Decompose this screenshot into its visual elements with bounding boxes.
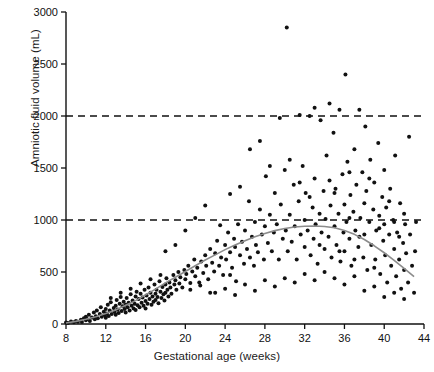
data-point (345, 160, 349, 164)
data-point (158, 273, 162, 277)
scatter-plot-svg: 0500100015002000250030008121620242832364… (0, 0, 434, 372)
data-point (115, 298, 119, 302)
data-point (299, 233, 303, 237)
data-point (392, 291, 396, 295)
data-point (128, 308, 132, 312)
data-point (203, 203, 207, 207)
data-point (351, 210, 355, 214)
data-point (176, 270, 180, 274)
data-point (285, 26, 289, 30)
data-point (288, 213, 292, 217)
data-point (124, 311, 128, 315)
x-tick-label-40: 40 (378, 332, 390, 344)
data-point (384, 206, 388, 210)
data-point (347, 216, 351, 220)
data-point (382, 295, 386, 299)
data-point (262, 258, 266, 262)
data-point (228, 250, 232, 254)
data-point (114, 304, 118, 308)
data-point (303, 245, 307, 249)
data-point (306, 228, 310, 232)
data-point (333, 191, 337, 195)
data-point (138, 305, 142, 309)
y-axis-label: Amniotic fluid volume (mL) (29, 3, 41, 193)
data-point (413, 249, 417, 253)
data-point (212, 269, 216, 273)
data-point (201, 271, 205, 275)
data-point (352, 274, 356, 278)
data-point (414, 220, 418, 224)
data-point (88, 319, 92, 323)
data-point (180, 286, 184, 290)
data-point (344, 220, 348, 224)
data-point (349, 264, 353, 268)
data-point (325, 154, 329, 158)
data-point (87, 313, 91, 317)
data-point (253, 289, 257, 293)
data-point (208, 247, 212, 251)
data-point (256, 250, 260, 254)
data-point (290, 240, 294, 244)
data-point (139, 281, 143, 285)
data-point (303, 272, 307, 276)
data-point (147, 286, 151, 290)
data-point (268, 213, 272, 217)
data-point (162, 299, 166, 303)
data-point (134, 308, 138, 312)
data-point (298, 181, 302, 185)
data-point (119, 291, 123, 295)
data-point (361, 255, 365, 259)
data-point (301, 164, 305, 168)
data-point (354, 183, 358, 187)
data-point (234, 279, 238, 283)
data-point (169, 292, 173, 296)
data-point (303, 218, 307, 222)
data-point (319, 118, 323, 122)
data-point (266, 241, 270, 245)
data-point (275, 222, 279, 226)
data-point (365, 268, 369, 272)
trend-curve (66, 226, 414, 323)
data-point (247, 199, 251, 203)
data-point (358, 216, 362, 220)
data-point (224, 258, 228, 262)
data-point (342, 202, 346, 206)
data-point (402, 297, 406, 301)
data-point (387, 199, 391, 203)
data-point (329, 203, 333, 207)
data-point (278, 116, 282, 120)
data-point (357, 108, 361, 112)
data-point (309, 253, 313, 257)
data-point (362, 289, 366, 293)
data-point (164, 276, 168, 280)
chart-figure: 0500100015002000250030008121620242832364… (0, 0, 434, 372)
data-point (252, 264, 256, 268)
data-point (407, 135, 411, 139)
data-point (347, 170, 351, 174)
data-point (323, 247, 327, 251)
data-point (406, 280, 410, 284)
data-point (248, 255, 252, 259)
data-point (109, 300, 113, 304)
data-point (385, 280, 389, 284)
data-point (373, 258, 377, 262)
x-tick-label-32: 32 (299, 332, 311, 344)
data-point (337, 108, 341, 112)
data-point (372, 285, 376, 289)
data-point (281, 237, 285, 241)
data-point (371, 208, 375, 212)
data-point (322, 189, 326, 193)
data-point (288, 158, 292, 162)
data-point (270, 249, 274, 253)
data-point (328, 102, 332, 106)
data-point (394, 274, 398, 278)
data-point (243, 228, 247, 232)
data-point (273, 285, 277, 289)
data-point (228, 273, 232, 277)
data-point (377, 214, 381, 218)
data-point (146, 302, 150, 306)
data-point (399, 287, 403, 291)
data-point (308, 195, 312, 199)
data-point (193, 274, 197, 278)
data-point (226, 230, 230, 234)
